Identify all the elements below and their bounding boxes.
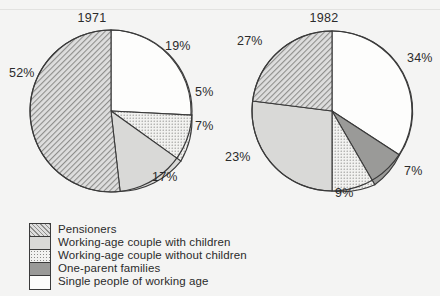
legend-swatch-couple-with-children (30, 237, 50, 250)
pie-1971-slice-pensioners (30, 30, 120, 192)
pie-1982-svg (220, 0, 440, 215)
legend-swatch-pensioners (30, 224, 50, 237)
pie-1982-slice-pensioners (253, 31, 332, 111)
pie-chart-1982: 1982 (220, 0, 440, 215)
legend-item-single-people: Single people of working age (58, 275, 247, 288)
pie-chart-1971: 1971 (0, 0, 220, 215)
legend-label-column: Pensioners Working-age couple with child… (58, 223, 247, 290)
legend-swatch-single-people (30, 276, 50, 289)
pie-1971-label-couple-without-children: 7% (195, 119, 213, 133)
pie-1971-label-pensioners: 52% (9, 66, 35, 80)
pie-1971-label-single-people: 19% (165, 39, 191, 53)
legend-item-couple-with-children: Working-age couple with children (58, 236, 247, 249)
pie-1971-label-one-parent: 5% (195, 85, 213, 99)
pie-1982-label-couple-without-children: 9% (335, 186, 353, 200)
pie-1982-label-pensioners: 27% (237, 34, 263, 48)
pie-1971-svg (0, 0, 220, 215)
legend-item-one-parent: One-parent families (58, 262, 247, 275)
legend-swatch-column (29, 223, 51, 290)
chart-legend: Pensioners Working-age couple with child… (29, 223, 247, 290)
legend-swatch-one-parent (30, 263, 50, 276)
pie-chart-figure: 1971 (0, 0, 440, 296)
pie-1982-label-single-people: 34% (407, 51, 433, 65)
legend-item-pensioners: Pensioners (58, 223, 247, 236)
pie-1982-slice-couple-with-children (252, 101, 332, 191)
legend-swatch-couple-without-children (30, 250, 50, 263)
pie-1982-label-one-parent: 7% (404, 164, 422, 178)
pie-1982-label-couple-with-children: 23% (225, 150, 251, 164)
pie-1971-label-couple-with-children: 17% (152, 170, 178, 184)
legend-item-couple-without-children: Working-age couple without children (58, 249, 247, 262)
